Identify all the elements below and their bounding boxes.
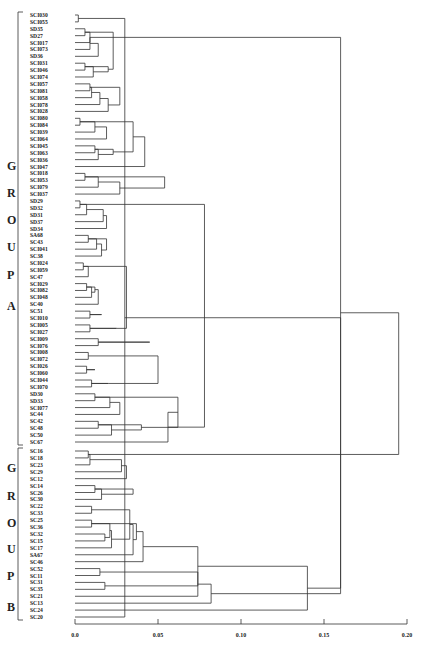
leaf-label: SC67 <box>30 439 43 445</box>
group-a-letter: P <box>7 268 14 282</box>
leaf-label: SD30 <box>30 391 43 397</box>
leaf-label: SCI024 <box>30 260 48 266</box>
group-b-letter: U <box>7 542 16 556</box>
leaf-label: SCI017 <box>30 40 48 46</box>
leaf-label: SA68 <box>30 232 43 238</box>
leaf-label: SCI027 <box>30 329 48 335</box>
leaf-label: SCI077 <box>30 405 48 411</box>
group-b-letter: O <box>7 516 16 530</box>
leaf-label: SCI005 <box>30 322 48 328</box>
leaf-label: SC46 <box>30 559 43 565</box>
leaf-label: SCI008 <box>30 349 48 355</box>
leaf-label: SC50 <box>30 432 43 438</box>
leaf-label: SC47 <box>30 274 43 280</box>
leaf-label: SCI053 <box>30 177 48 183</box>
leaf-label: SCI046 <box>30 67 48 73</box>
leaf-label: SCI041 <box>30 246 48 252</box>
leaf-label: SD36 <box>30 53 43 59</box>
leaf-label: SCI058 <box>30 95 48 101</box>
leaf-label: SCI044 <box>30 377 48 383</box>
leaf-label: SC33 <box>30 510 43 516</box>
leaf-label: SCI037 <box>30 191 48 197</box>
leaf-label: SC17 <box>30 545 43 551</box>
leaf-label: SCI057 <box>30 81 48 87</box>
leaf-label: SD31 <box>30 212 43 218</box>
leaf-label: SD37 <box>30 219 43 225</box>
leaf-label: SC51 <box>30 308 43 314</box>
leaf-label: SCI018 <box>30 170 48 176</box>
leaf-label: SC12 <box>30 476 43 482</box>
leaf-label: SCI010 <box>30 315 48 321</box>
leaf-label: SC44 <box>30 411 43 417</box>
leaf-label: SCI072 <box>30 356 48 362</box>
leaf-label: SCI029 <box>30 281 48 287</box>
leaf-label: SD29 <box>30 198 43 204</box>
leaf-label: SC20 <box>30 614 43 620</box>
leaf-label: SC38 <box>30 253 43 259</box>
leaf-label: SD27 <box>30 33 43 39</box>
leaf-label: SD33 <box>30 398 43 404</box>
leaf-label: SCI009 <box>30 336 48 342</box>
leaf-label: SCI047 <box>30 164 48 170</box>
leaf-label: SCI084 <box>30 122 48 128</box>
leaf-label: SA67 <box>30 552 43 558</box>
leaf-label: SC48 <box>30 425 43 431</box>
leaf-label: SCI048 <box>30 294 48 300</box>
leaf-label: SCI070 <box>30 384 48 390</box>
leaf-label: SCI080 <box>30 115 48 121</box>
x-axis-tick-label: 0.15 <box>319 632 330 638</box>
leaf-label: SC21 <box>30 593 43 599</box>
leaf-label: SC25 <box>30 517 43 523</box>
leaf-label: SCI059 <box>30 267 48 273</box>
leaf-label: SC36 <box>30 524 43 530</box>
leaf-label: SD32 <box>30 205 43 211</box>
group-b-letter: B <box>7 600 15 614</box>
group-a-letter: R <box>7 186 16 200</box>
leaf-label: SCI074 <box>30 74 48 80</box>
leaf-label: SC31 <box>30 579 43 585</box>
dendrogram-figure: SCI030SCI055SD35SD27SCI017SCI073SD36SCI0… <box>0 0 433 651</box>
leaf-label: SC13 <box>30 600 43 606</box>
leaf-label: SCI064 <box>30 136 48 142</box>
leaf-label: SCI031 <box>30 60 48 66</box>
x-axis-tick-label: 0.10 <box>236 632 247 638</box>
leaf-label: SCI026 <box>30 363 48 369</box>
leaf-label: SC18 <box>30 455 43 461</box>
group-a-letter: G <box>7 159 16 173</box>
group-a-letter: A <box>7 299 16 313</box>
leaf-label: SC15 <box>30 538 43 544</box>
leaf-label: SC26 <box>30 490 43 496</box>
leaf-label: SCI039 <box>30 129 48 135</box>
group-bracket <box>18 12 23 445</box>
x-axis-tick-label: 0.05 <box>153 632 164 638</box>
leaf-label: SC43 <box>30 239 43 245</box>
leaf-label: SC24 <box>30 607 43 613</box>
leaf-label: SC40 <box>30 301 43 307</box>
leaf-label: SC52 <box>30 566 43 572</box>
leaf-label: SCI079 <box>30 184 48 190</box>
leaf-label: SC42 <box>30 418 43 424</box>
leaf-label: SC35 <box>30 586 43 592</box>
leaf-label: SC14 <box>30 483 43 489</box>
group-b-letter: R <box>7 489 16 503</box>
leaf-label: SCI028 <box>30 108 48 114</box>
leaf-label: SCI082 <box>30 287 48 293</box>
leaf-label: SCI073 <box>30 46 48 52</box>
leaf-label: SCI055 <box>30 19 48 25</box>
leaf-label: SCI081 <box>30 88 48 94</box>
group-b-letter: P <box>7 569 14 583</box>
x-axis-tick-label: 0.0 <box>71 632 79 638</box>
leaf-label: SC30 <box>30 496 43 502</box>
leaf-label: SC16 <box>30 448 43 454</box>
leaf-label: SC29 <box>30 469 43 475</box>
leaf-label: SD34 <box>30 226 43 232</box>
leaf-label: SC23 <box>30 462 43 468</box>
leaf-label: SC22 <box>30 503 43 509</box>
group-b-letter: G <box>7 461 16 475</box>
leaf-label: SC32 <box>30 531 43 537</box>
leaf-label: SCI078 <box>30 102 48 108</box>
leaf-label: SD35 <box>30 26 43 32</box>
leaf-label: SCI030 <box>30 12 48 18</box>
leaf-label: SCI063 <box>30 150 48 156</box>
group-bracket <box>18 448 23 620</box>
